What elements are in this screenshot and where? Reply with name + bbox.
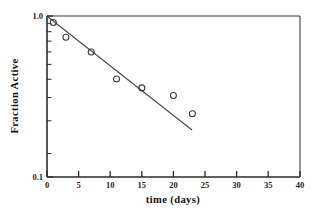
x-tick-label: 10	[106, 180, 115, 190]
data-point	[189, 111, 195, 117]
data-point	[114, 76, 120, 82]
fit-line	[48, 17, 192, 130]
x-tick-label: 20	[169, 180, 178, 190]
data-markers	[50, 20, 195, 117]
x-tick-label: 0	[45, 180, 49, 190]
x-tick-label: 15	[138, 180, 147, 190]
plot-frame	[47, 16, 300, 177]
x-axis-ticks	[47, 171, 300, 177]
y-axis-ticks	[47, 16, 53, 177]
x-tick-label: 35	[264, 180, 273, 190]
x-tick-label: 40	[296, 180, 305, 190]
data-point	[63, 34, 69, 40]
y-tick-label-bottom: 0.1	[32, 172, 43, 182]
x-tick-label: 30	[232, 180, 241, 190]
chart-figure: 0 5 10 15 20 25 30 35 40 1.0 0.1 time (d…	[0, 0, 325, 211]
y-axis-title: Fraction Active	[9, 58, 20, 133]
x-tick-label: 5	[76, 180, 80, 190]
data-point	[170, 93, 176, 99]
semilog-decay-chart: 0 5 10 15 20 25 30 35 40 1.0 0.1 time (d…	[0, 0, 325, 211]
x-tick-labels: 0 5 10 15 20 25 30 35 40	[45, 180, 304, 190]
x-tick-label: 25	[201, 180, 210, 190]
y-tick-labels: 1.0 0.1	[32, 11, 43, 182]
y-tick-label-top: 1.0	[32, 11, 43, 21]
x-axis-title: time (days)	[146, 194, 200, 206]
